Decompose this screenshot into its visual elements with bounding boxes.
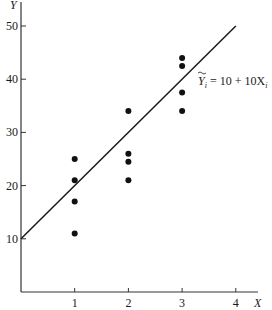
y-tick-label: 30 [6, 125, 18, 139]
fitted-line [21, 26, 236, 239]
x-tick-label: 1 [72, 296, 78, 310]
y-ticks: 1020304050 [6, 19, 26, 246]
data-point [179, 90, 185, 96]
data-point [125, 151, 131, 157]
axes [21, 2, 258, 292]
y-tick-label: 40 [6, 72, 18, 86]
data-point [72, 199, 78, 205]
data-points [72, 55, 185, 237]
data-point [125, 108, 131, 114]
data-point [179, 55, 185, 61]
y-axis-label: Y [10, 0, 18, 12]
regression-equation: Yi = 10 + 10Xi [198, 74, 267, 90]
y-tick-label: 50 [6, 19, 18, 33]
x-tick-label: 3 [179, 296, 185, 310]
data-point [179, 63, 185, 69]
y-tick-label: 20 [6, 179, 18, 193]
data-point [72, 156, 78, 162]
regression-line [21, 26, 236, 239]
data-point [125, 159, 131, 165]
equation-rhs: = 10 + 10X [207, 74, 266, 88]
y-tick-label: 10 [6, 232, 18, 246]
x-tick-label: 2 [125, 296, 131, 310]
x-axis-label: X [253, 296, 262, 310]
data-point [72, 177, 78, 183]
x-tick-label: 4 [233, 296, 239, 310]
scatter-chart: 1020304050 1234 Y X Yi = 10 + 10Xi [0, 0, 272, 310]
x-ticks: 1234 [72, 288, 239, 310]
equation-rhs-sub: i [265, 81, 267, 90]
data-point [179, 108, 185, 114]
data-point [72, 230, 78, 236]
data-point [125, 177, 131, 183]
